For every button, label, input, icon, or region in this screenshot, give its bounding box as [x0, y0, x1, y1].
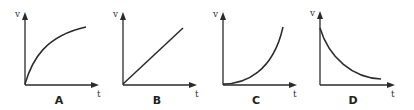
graph-panel-d: v t D [305, 0, 409, 110]
graph-panel-b: v t B [100, 0, 204, 110]
graph-panel-a: v t A [0, 0, 104, 110]
graph-panel-c: v t C [205, 0, 309, 110]
panel-label: C [246, 94, 266, 107]
y-axis-label: v [15, 9, 20, 19]
y-axis-label: v [213, 9, 218, 19]
y-axis-label: v [310, 8, 315, 18]
x-axis-label: t [293, 89, 297, 99]
x-axis-label: t [195, 89, 199, 99]
panel-label: D [343, 94, 363, 107]
x-axis-label: t [391, 89, 395, 99]
panel-label: A [49, 94, 69, 107]
y-axis-label: v [113, 9, 118, 19]
panel-label: B [147, 94, 167, 107]
